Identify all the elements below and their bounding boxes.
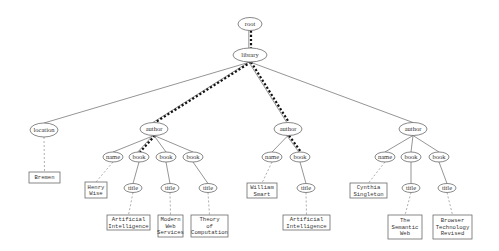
element-node-label: book (405, 153, 419, 160)
element-node-author[interactable]: author (399, 123, 427, 136)
element-node-label: book (433, 153, 447, 160)
element-node-label: title (301, 184, 311, 191)
element-node-book[interactable]: book (156, 152, 176, 162)
element-node-name[interactable]: name (103, 152, 123, 162)
highlighted-path-edge (251, 62, 289, 123)
element-node-title[interactable]: title (199, 184, 217, 193)
text-node[interactable]: HenryWise (85, 182, 107, 198)
text-node-line: Intelligence (108, 223, 148, 230)
tree-edge (138, 136, 153, 153)
element-node-label: name (378, 153, 392, 160)
xml-tree-diagram: rootlibrarylocationauthornamebookbookboo… (0, 0, 499, 251)
text-node-line: Intelligence (286, 223, 326, 230)
highlighted-path-edge (289, 136, 301, 153)
element-node-book[interactable]: book (429, 152, 449, 162)
element-node-label: author (280, 125, 297, 132)
nodes-layer: rootlibrarylocationauthornamebookbookboo… (29, 18, 472, 240)
tree-svg: rootlibrarylocationauthornamebookbookboo… (0, 0, 499, 251)
element-node-root[interactable]: root (238, 18, 262, 31)
element-node-name[interactable]: name (262, 152, 282, 162)
element-node-label: title (203, 184, 213, 191)
element-node-label: location (34, 126, 56, 133)
tree-edge (166, 162, 170, 184)
tree-edge (113, 136, 154, 153)
element-node-label: author (146, 125, 163, 132)
text-node-line: Web (400, 230, 410, 237)
text-node-line: Smart (254, 191, 271, 198)
element-node-label: root (245, 20, 256, 27)
text-node[interactable]: TheoryofComputation (191, 215, 228, 237)
element-node-title[interactable]: title (124, 184, 142, 193)
element-node-author[interactable]: author (140, 123, 168, 136)
text-node-line: Wise (89, 190, 102, 197)
text-node[interactable]: ModernWebServices (157, 215, 184, 237)
element-node-library[interactable]: library (233, 48, 267, 62)
text-node[interactable]: TheSemanticWeb (388, 215, 422, 239)
element-node-label: title (165, 184, 175, 191)
text-node[interactable]: ArtificialIntelligence (107, 215, 150, 230)
element-node-label: title (406, 184, 416, 191)
element-node-author[interactable]: author (274, 123, 302, 136)
element-node-book[interactable]: book (129, 152, 149, 162)
text-node-line: Bremen (34, 174, 54, 181)
tree-edge (44, 62, 250, 123)
element-node-label: book (160, 153, 174, 160)
tree-edge (250, 62, 413, 123)
element-node-title[interactable]: title (438, 184, 456, 193)
text-edge (262, 162, 272, 183)
element-node-title[interactable]: title (402, 184, 420, 193)
tree-edge (153, 62, 249, 123)
tree-edge (287, 136, 299, 153)
element-node-label: book (133, 153, 147, 160)
element-node-location[interactable]: location (30, 123, 58, 137)
element-node-label: name (106, 153, 120, 160)
element-node-label: author (405, 125, 422, 132)
tree-edge (411, 136, 413, 153)
text-edge (96, 162, 113, 182)
text-node[interactable]: CynthiaSingleton (350, 183, 387, 198)
tree-edge (300, 162, 306, 184)
text-node[interactable]: WilliamSmart (247, 183, 277, 198)
text-node[interactable]: Bremen (29, 172, 60, 183)
element-node-label: book (294, 153, 308, 160)
text-edge (129, 193, 134, 216)
text-node-line: Computation (191, 229, 228, 236)
tree-edge (193, 162, 208, 184)
tree-edge (385, 136, 413, 153)
text-node-line: Revised (441, 230, 465, 237)
element-node-label: title (128, 184, 138, 191)
text-node[interactable]: BrowserTechnologyRevised (433, 215, 472, 239)
element-node-label: title (442, 184, 452, 191)
tree-edge (249, 62, 287, 123)
element-node-title[interactable]: title (161, 184, 179, 193)
element-node-label: library (241, 51, 259, 58)
tree-edge (413, 136, 439, 153)
tree-edge (439, 162, 447, 184)
highlighted-path-edge (155, 62, 251, 123)
text-edge (208, 193, 210, 216)
element-node-title[interactable]: title (297, 184, 315, 193)
element-node-book[interactable]: book (183, 152, 203, 162)
element-node-name[interactable]: name (375, 152, 395, 162)
text-edge (447, 193, 453, 216)
element-node-label: name (265, 153, 279, 160)
text-node-line: Services (157, 229, 184, 236)
text-node-line: Singleton (353, 191, 383, 198)
element-node-book[interactable]: book (401, 152, 421, 162)
text-edge (306, 193, 307, 216)
text-edge (44, 137, 45, 172)
text-node[interactable]: ArtificialIntelligence (283, 215, 330, 230)
text-edge (369, 162, 386, 183)
text-edge (170, 193, 171, 216)
element-node-book[interactable]: book (290, 152, 310, 162)
tree-edge (272, 136, 288, 153)
text-edge (405, 193, 411, 216)
tree-edge (133, 162, 139, 184)
element-node-label: book (187, 153, 201, 160)
